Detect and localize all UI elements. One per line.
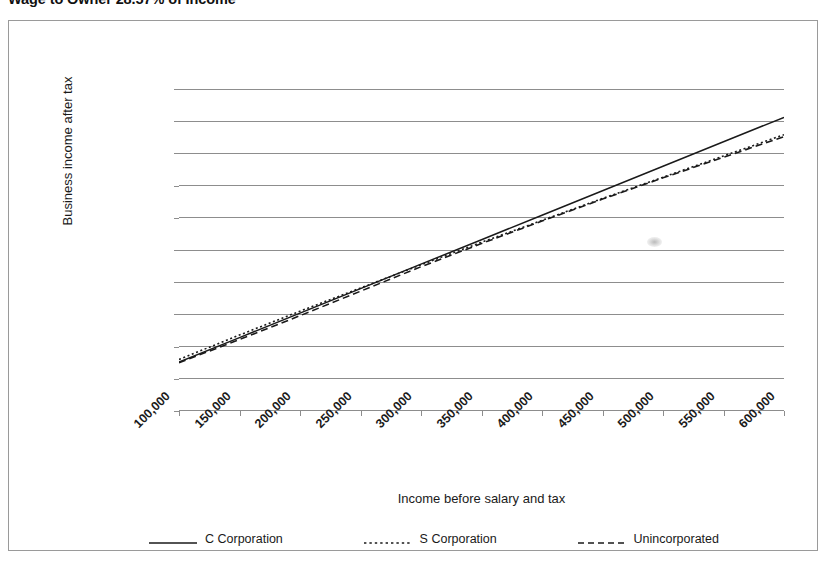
chart-frame: Business income after tax 050,000100,000… bbox=[8, 20, 818, 551]
legend-label: Unincorporated bbox=[634, 532, 719, 546]
plot-svg bbox=[179, 89, 784, 411]
chart-title: Wage to Owner 28.57% of Income bbox=[8, 0, 236, 7]
legend-label: S Corporation bbox=[420, 532, 497, 546]
y-axis-tick-mark bbox=[174, 89, 179, 90]
scan-artifact-smudge bbox=[647, 237, 662, 247]
legend-entry[interactable]: Unincorporated bbox=[578, 532, 719, 546]
series-lines bbox=[179, 117, 784, 362]
x-axis-tick-mark bbox=[300, 411, 301, 416]
x-axis-tick-mark bbox=[603, 411, 604, 416]
y-axis-tick-mark bbox=[174, 218, 179, 219]
y-axis-tick-mark bbox=[174, 121, 179, 122]
legend-label: C Corporation bbox=[205, 532, 283, 546]
y-axis-tick-mark bbox=[174, 379, 179, 380]
chart-legend: C CorporationS CorporationUnincorporated bbox=[149, 532, 719, 546]
x-axis-tick-label: 100,000 bbox=[131, 389, 173, 431]
x-axis-tick-mark bbox=[179, 411, 180, 416]
x-axis-tick-mark bbox=[784, 411, 785, 416]
y-axis-tick-mark bbox=[174, 153, 179, 154]
x-axis-tick-mark bbox=[482, 411, 483, 416]
y-axis-tick-mark bbox=[174, 186, 179, 187]
legend-entry[interactable]: C Corporation bbox=[149, 532, 283, 546]
y-axis-tick-mark bbox=[174, 347, 179, 348]
plot-area: 050,000100,000150,000200,000250,000300,0… bbox=[179, 89, 784, 411]
x-axis-title: Income before salary and tax bbox=[179, 491, 784, 506]
x-axis-tick-mark bbox=[663, 411, 664, 416]
y-axis-tick-mark bbox=[174, 282, 179, 283]
chart-page: Wage to Owner 28.57% of Income Business … bbox=[0, 0, 826, 561]
x-axis-tick-mark bbox=[421, 411, 422, 416]
legend-swatch-dashed bbox=[578, 534, 626, 544]
series-line bbox=[179, 117, 784, 362]
y-axis-title: Business income after tax bbox=[60, 26, 75, 276]
x-axis-tick-mark bbox=[361, 411, 362, 416]
gridlines bbox=[179, 89, 784, 411]
legend-swatch-solid bbox=[149, 534, 197, 544]
x-axis-tick-mark bbox=[724, 411, 725, 416]
x-axis-tick-mark bbox=[240, 411, 241, 416]
x-axis-tick-mark bbox=[542, 411, 543, 416]
legend-entry[interactable]: S Corporation bbox=[364, 532, 497, 546]
y-axis-tick-mark bbox=[174, 314, 179, 315]
legend-swatch-dotted bbox=[364, 534, 412, 544]
y-axis-tick-mark bbox=[174, 250, 179, 251]
